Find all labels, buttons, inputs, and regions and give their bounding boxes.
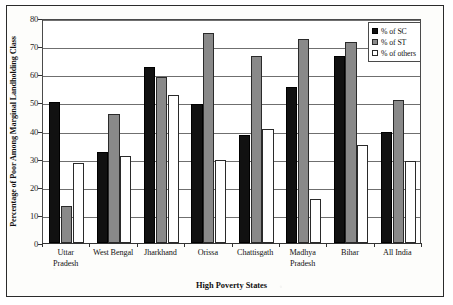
legend-swatch-icon [372, 50, 378, 56]
x-axis-tick-label-line: Pradesh [279, 259, 326, 270]
y-axis-tick-label: 40 [16, 127, 38, 137]
x-axis-tick-label: Orissa [184, 248, 231, 259]
legend-swatch-icon [372, 28, 378, 34]
legend-label: % of SC [381, 27, 407, 36]
chart-legend: % of SC% of ST% of others [368, 22, 421, 62]
x-axis-tick-label: MadhyaPradesh [279, 248, 326, 269]
x-axis-tick-label: Jharkhand [137, 248, 184, 259]
x-axis-tick [137, 243, 138, 247]
legend-item: % of others [372, 48, 416, 58]
x-axis-tick [184, 243, 185, 247]
x-axis-tick [89, 243, 90, 247]
x-axis-tick [279, 243, 280, 247]
legend-item: % of ST [372, 37, 416, 47]
y-axis-tick [38, 216, 42, 217]
x-axis-tick [326, 243, 327, 247]
y-axis-tick [38, 160, 42, 161]
legend-swatch-icon [372, 39, 378, 45]
y-axis-tick-label: 0 [16, 239, 38, 249]
x-axis-tick [232, 243, 233, 247]
x-axis-tick [374, 243, 375, 247]
x-axis-tick-labels: UttarPradeshWest BengalJharkhandOrissaCh… [42, 248, 421, 280]
legend-label: % of ST [381, 38, 406, 47]
x-axis-tick-label-line: Pradesh [42, 259, 89, 270]
x-axis-tick-label: All India [374, 248, 421, 259]
legend-item: % of SC [372, 26, 416, 36]
x-axis-tick-label-line: Chattisgath [232, 248, 279, 259]
legend-label: % of others [381, 49, 416, 58]
x-axis-tick-label: Bihar [326, 248, 373, 259]
y-axis-tick [38, 19, 42, 20]
x-axis-tick-label-line: Bihar [326, 248, 373, 259]
x-axis-tick-label: West Bengal [89, 248, 136, 259]
y-axis-tick-label: 30 [16, 155, 38, 165]
y-axis-tick-label: 10 [16, 211, 38, 221]
x-axis-title: High Poverty States [42, 281, 421, 290]
figure-container: Percentage of Poor Among Marginal Landho… [0, 0, 453, 305]
y-axis-tick-label: 50 [16, 98, 38, 108]
y-axis-tick-label: 70 [16, 42, 38, 52]
y-axis-tick [38, 188, 42, 189]
y-axis-tick-label: 20 [16, 183, 38, 193]
x-axis-tick-label-line: West Bengal [89, 248, 136, 259]
y-axis-tick [38, 132, 42, 133]
x-axis-tick-label: Chattisgath [232, 248, 279, 259]
x-axis-tick [42, 243, 43, 247]
y-axis-tick-labels: 01020304050607080 [42, 19, 421, 244]
x-axis-tick-label-line: All India [374, 248, 421, 259]
y-axis-tick [38, 47, 42, 48]
y-axis-tick-label: 60 [16, 70, 38, 80]
x-axis-tick-label-line: Madhya [279, 248, 326, 259]
x-axis-tick-label-line: Jharkhand [137, 248, 184, 259]
x-axis-tick [421, 243, 422, 247]
x-axis-tick-label-line: Uttar [42, 248, 89, 259]
y-axis-tick [38, 75, 42, 76]
y-axis-tick-label: 80 [16, 14, 38, 24]
y-axis-tick [38, 103, 42, 104]
x-axis-tick-label: UttarPradesh [42, 248, 89, 269]
x-axis-tick-label-line: Orissa [184, 248, 231, 259]
